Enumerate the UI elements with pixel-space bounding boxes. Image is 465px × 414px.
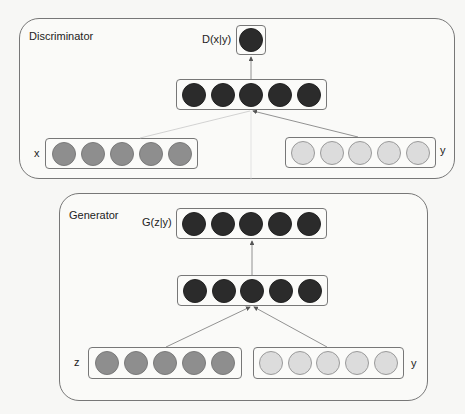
generator-input-y-layer (253, 347, 404, 379)
discriminator-input-x-label: x (34, 147, 40, 159)
output-node (182, 212, 206, 236)
discriminator-output-node (239, 28, 263, 52)
input-z-node (95, 351, 119, 375)
discriminator-title: Discriminator (29, 30, 93, 42)
input-x-node (139, 142, 163, 166)
generator-output-layer (176, 208, 327, 239)
hidden-node (240, 279, 264, 303)
hidden-node (211, 83, 235, 107)
input-y-node (374, 351, 398, 375)
input-z-node (124, 351, 148, 375)
generator-title: Generator (69, 209, 119, 221)
discriminator-input-x-layer (45, 138, 198, 169)
input-x-node (81, 142, 105, 166)
hidden-node (239, 83, 263, 107)
generator-input-z-layer (88, 347, 242, 379)
input-x-node (52, 142, 76, 166)
output-node (211, 212, 235, 236)
input-y-node (259, 351, 283, 375)
input-y-node (288, 351, 312, 375)
input-y-node (348, 141, 372, 165)
hidden-node (183, 279, 207, 303)
input-y-node (406, 141, 430, 165)
input-x-node (110, 142, 134, 166)
hidden-node (268, 83, 292, 107)
generator-output-label: G(z|y) (142, 216, 172, 228)
hidden-node (298, 279, 322, 303)
input-z-node (182, 351, 206, 375)
output-node (297, 212, 321, 236)
discriminator-hidden-layer (176, 79, 327, 110)
hidden-node (297, 83, 321, 107)
hidden-node (212, 279, 236, 303)
input-y-node (291, 141, 315, 165)
discriminator-output-layer (236, 25, 266, 55)
output-node (268, 212, 292, 236)
hidden-node (269, 279, 293, 303)
discriminator-input-y-label: y (440, 144, 446, 156)
input-y-node (320, 141, 344, 165)
discriminator-output-label: D(x|y) (202, 33, 231, 45)
generator-hidden-layer (177, 275, 328, 306)
input-y-node (316, 351, 340, 375)
input-y-node (377, 141, 401, 165)
input-z-node (211, 351, 235, 375)
discriminator-input-y-layer (285, 137, 436, 168)
input-y-node (345, 351, 369, 375)
input-x-node (168, 142, 192, 166)
input-z-node (153, 351, 177, 375)
generator-input-z-label: z (74, 356, 80, 368)
generator-input-y-label: y (411, 357, 417, 369)
hidden-node (182, 83, 206, 107)
output-node (239, 212, 263, 236)
